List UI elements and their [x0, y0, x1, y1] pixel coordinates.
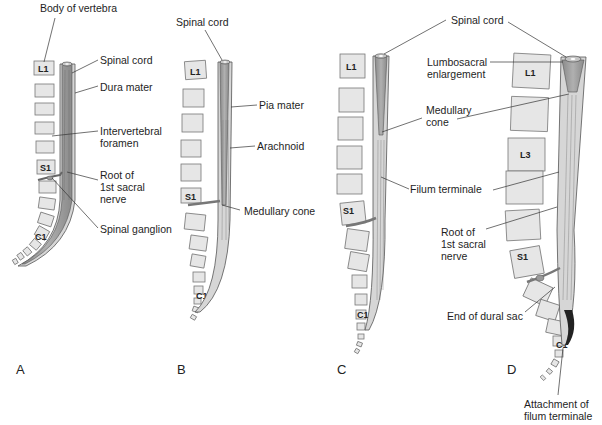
label-lumbosacral-enlargement: Lumbosacral enlargement	[427, 56, 487, 80]
vertebra-label-l1: L1	[190, 67, 201, 77]
label-spinal-cord-d: Spinal cord	[451, 14, 504, 26]
label-end-of-dural-sac: End of dural sac	[447, 310, 523, 322]
panel-letter-d: D	[507, 362, 516, 377]
panel-letter-a: A	[16, 362, 25, 377]
vertebra-label-l1: L1	[38, 64, 49, 74]
label-medullary-cone-c: Medullary cone	[426, 104, 472, 128]
panel-b-vertebrae	[181, 60, 208, 320]
vertebra-label-s1: S1	[517, 252, 528, 262]
label-spinal-cord-b: Spinal cord	[176, 16, 229, 28]
label-spinal-cord-a: Spinal cord	[100, 54, 153, 66]
panel-b-drawing: L1 S1 C1	[181, 30, 257, 320]
vertebra-label-l1: L1	[346, 62, 357, 72]
label-root-sacral-nerve-d: Root of 1st sacral nerve	[441, 226, 486, 262]
panel-d-vertebrae	[505, 53, 564, 380]
label-medullary-cone-b: Medullary cone	[244, 205, 315, 217]
panel-a-drawing: L1 S1 C1	[12, 18, 98, 266]
panel-letter-b: B	[177, 362, 186, 377]
panel-c-vertebrae	[337, 54, 369, 354]
vertebra-label-s1: S1	[343, 206, 354, 216]
vertebra-label-c1: C1	[357, 310, 369, 320]
label-intervertebral-foramen: Intervertebral foramen	[100, 125, 162, 149]
label-arachnoid: Arachnoid	[257, 140, 304, 152]
label-root-sacral-nerve-a: Root of 1st sacral nerve	[100, 169, 145, 205]
label-attachment-filum-terminale: Attachment of filum terminale	[524, 398, 592, 422]
panel-letter-c: C	[337, 362, 346, 377]
label-spinal-ganglion: Spinal ganglion	[100, 223, 172, 235]
vertebra-label-c1: C1	[35, 232, 47, 242]
vertebra-label-s1: S1	[185, 192, 196, 202]
vertebra-label-l3: L3	[520, 150, 531, 160]
label-pia-mater: Pia mater	[259, 99, 304, 111]
label-dura-mater: Dura mater	[100, 81, 153, 93]
vertebra-label-l1: L1	[525, 68, 536, 78]
label-body-of-vertebra: Body of vertebra	[40, 2, 117, 14]
label-filum-terminale: Filum terminale	[410, 183, 482, 195]
vertebra-label-s1: S1	[40, 163, 51, 173]
